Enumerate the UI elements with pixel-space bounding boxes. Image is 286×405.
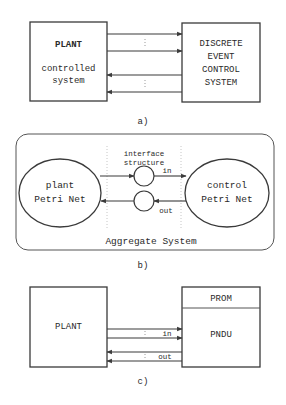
diagram-canvas: PLANT controlled system DISCRETE EVENT C… <box>0 0 286 405</box>
aggregate-system-label: Aggregate System <box>105 236 197 247</box>
out-label-c: out <box>158 353 172 361</box>
des-line2: EVENT <box>207 52 235 62</box>
control-net-line2: Petri Net <box>201 194 252 205</box>
plant-title-a: PLANT <box>55 40 83 50</box>
diagram-a: PLANT controlled system DISCRETE EVENT C… <box>30 22 260 127</box>
des-box <box>182 23 260 102</box>
in-label-b: in <box>162 167 171 175</box>
plant-petri-net-node <box>19 159 101 227</box>
des-line4: SYSTEM <box>205 78 237 88</box>
control-net-line1: control <box>207 180 247 191</box>
plant-title-c: PLANT <box>55 322 83 332</box>
plant-box-a <box>30 22 107 101</box>
prom-label: PROM <box>210 294 232 304</box>
interface-label-line1: interface <box>124 150 165 158</box>
plant-subtitle-line2: system <box>52 76 84 86</box>
out-place-circle <box>134 191 154 211</box>
caption-c: c) <box>138 377 149 387</box>
plant-subtitle-line1: controlled <box>41 64 95 74</box>
in-place-circle <box>134 166 154 186</box>
plant-net-line2: Petri Net <box>34 194 85 205</box>
out-label-b: out <box>159 207 173 215</box>
control-petri-net-node <box>185 159 269 227</box>
des-line1: DISCRETE <box>199 39 242 49</box>
caption-b: b) <box>138 261 149 271</box>
plant-net-line1: plant <box>46 180 75 191</box>
des-line3: CONTROL <box>202 65 240 75</box>
diagram-b: plant Petri Net control Petri Net interf… <box>16 134 274 271</box>
in-label-c: in <box>162 330 171 338</box>
pndu-label: PNDU <box>210 330 232 340</box>
caption-a: a) <box>138 117 149 127</box>
diagram-c: PLANT PROM PNDU in out c) <box>30 287 260 387</box>
